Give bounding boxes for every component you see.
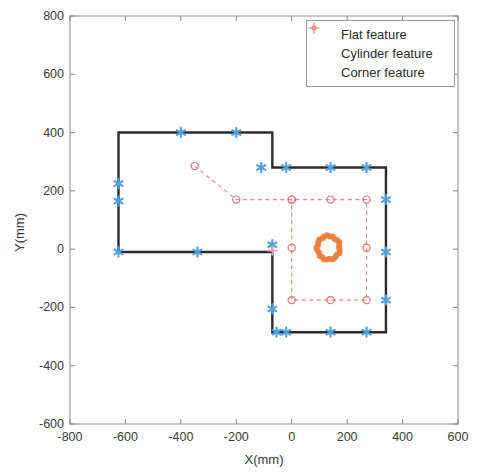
legend-label-cylinder: Cylinder feature [341,46,433,61]
series-layer [115,128,390,337]
series-room-outline [119,133,386,333]
y-tick-label: 600 [20,67,64,81]
x-tick-label: -400 [168,430,193,444]
legend: Flat feature Cylinder feature Corner fea… [306,20,455,87]
y-tick-label: -600 [20,417,64,431]
y-tick-label: 200 [20,184,64,198]
series-cylinder-feature [313,232,342,262]
x-tick-label: 200 [337,430,358,444]
y-axis-title: Y(mm) [12,213,27,252]
legend-label-corner: Corner feature [341,65,425,80]
legend-item-flat: Flat feature [307,25,454,44]
legend-label-flat: Flat feature [341,27,407,42]
x-tick-label: -200 [224,430,249,444]
x-axis-title: X(mm) [245,452,284,467]
series-flat-feature [115,128,390,337]
x-tick-label: 0 [288,430,295,444]
x-tick-label: -600 [113,430,138,444]
legend-item-corner: Corner feature [307,63,454,82]
x-tick-label: 600 [448,430,469,444]
figure-canvas: -800-600-400-2000200400600-600-400-20002… [0,0,479,475]
series-trajectory [191,162,370,303]
y-tick-label: -200 [20,300,64,314]
x-tick-label: 400 [392,430,413,444]
y-tick-label: 400 [20,126,64,140]
y-tick-label: 800 [20,9,64,23]
y-tick-label: -400 [20,359,64,373]
legend-item-cylinder: Cylinder feature [307,44,454,63]
x-tick-label: -800 [57,430,82,444]
